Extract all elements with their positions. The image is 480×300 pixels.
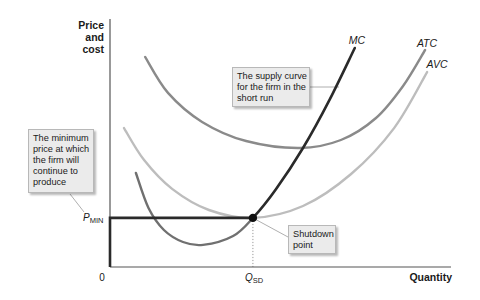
atc-label: ATC [416,37,438,49]
mc-curve-below-shutdown [136,173,253,245]
shutdown-point-marker [249,214,257,222]
callout-text: continue to [33,166,89,177]
shutdown-callout-connector [253,218,288,237]
callout-text: The minimum [33,133,89,144]
pmin-label: PMIN [83,212,103,225]
y-axis-label-line-1: Price [78,19,104,31]
minimum-price-callout-connector [70,194,84,212]
callout-text: price at which [33,144,89,155]
callout-text: Shutdown [293,229,331,240]
minimum-price-callout: The minimum price at which the firm will… [28,129,94,193]
callout-text: produce [33,177,89,188]
x-axis-label: Quantity [409,271,452,283]
pmin-label-sub: MIN [90,216,104,225]
qsd-label: QSD [245,272,264,285]
supply-curve-callout: The supply curve for the firm in the sho… [232,67,310,107]
mc-label: MC [349,34,366,46]
y-axis-label-line-3: cost [82,43,104,55]
origin-label: 0 [99,272,105,283]
callout-text: point [293,240,331,251]
qsd-label-sub: SD [253,276,264,285]
avc-label: AVC [425,58,447,70]
y-axis-label-line-2: and [85,31,104,43]
callout-text: The supply curve [237,71,305,82]
callout-text: for the firm in the [237,82,305,93]
callout-text: short run [237,93,305,104]
callout-text: the firm will [33,155,89,166]
shutdown-point-callout: Shutdown point [288,225,336,254]
